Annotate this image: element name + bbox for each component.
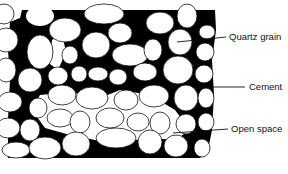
label-quartz-grain: Quartz grain xyxy=(229,32,281,42)
sandstone-diagram xyxy=(0,0,288,174)
label-open-space: Open space xyxy=(231,124,282,134)
label-cement: Cement xyxy=(249,82,282,92)
